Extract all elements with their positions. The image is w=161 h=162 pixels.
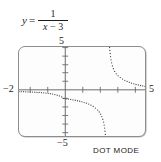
denominator-number: 3 [58,21,63,32]
x-axis-min-label: −2 [3,84,14,94]
dot-mode-caption: DOT MODE [93,146,139,155]
curve-left-branch [19,91,106,137]
equation-label: y = 1 x − 3 [22,9,68,32]
axes [19,47,145,137]
equation-fraction: 1 x − 3 [38,9,68,32]
denominator-variable: x [43,21,47,32]
equation-lhs: y [22,15,29,26]
denominator-operator: − [50,21,56,32]
calculator-screen [18,46,146,137]
equation-equals-sign: = [29,15,38,26]
x-axis-max-label: 5 [149,84,154,94]
curve-right-branch [109,47,145,87]
y-axis-max-label: 5 [59,36,64,46]
y-axis-min-label: −5 [57,138,68,148]
graph-figure: y = 1 x − 3 [0,0,161,162]
fraction-denominator: x − 3 [40,21,66,32]
graph-plot [19,47,145,137]
fraction-numerator: 1 [47,9,60,20]
